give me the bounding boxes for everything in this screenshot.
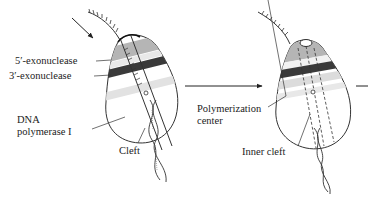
template-strand-ticks-icon [262,11,288,35]
label-cleft: Cleft [119,145,140,157]
label-5-exonuclease: 5′-exonuclease [15,55,77,67]
incoming-arrow-icon [72,18,93,38]
label-polymerization-center-line2: center [197,115,223,127]
label-polymerization-center-line1: Polymerization [197,103,261,115]
label-dna-polymerase-line1: DNA [17,114,40,126]
diagram-canvas [0,0,368,200]
right-enzyme [258,0,361,194]
label-dna-polymerase-line2: polymerase I [17,126,72,138]
label-3-exonuclease: 3′-exonuclease [9,70,71,82]
active-site-icon [311,90,315,94]
label-inner-cleft: Inner cleft [242,146,285,158]
active-site-icon [144,91,148,95]
